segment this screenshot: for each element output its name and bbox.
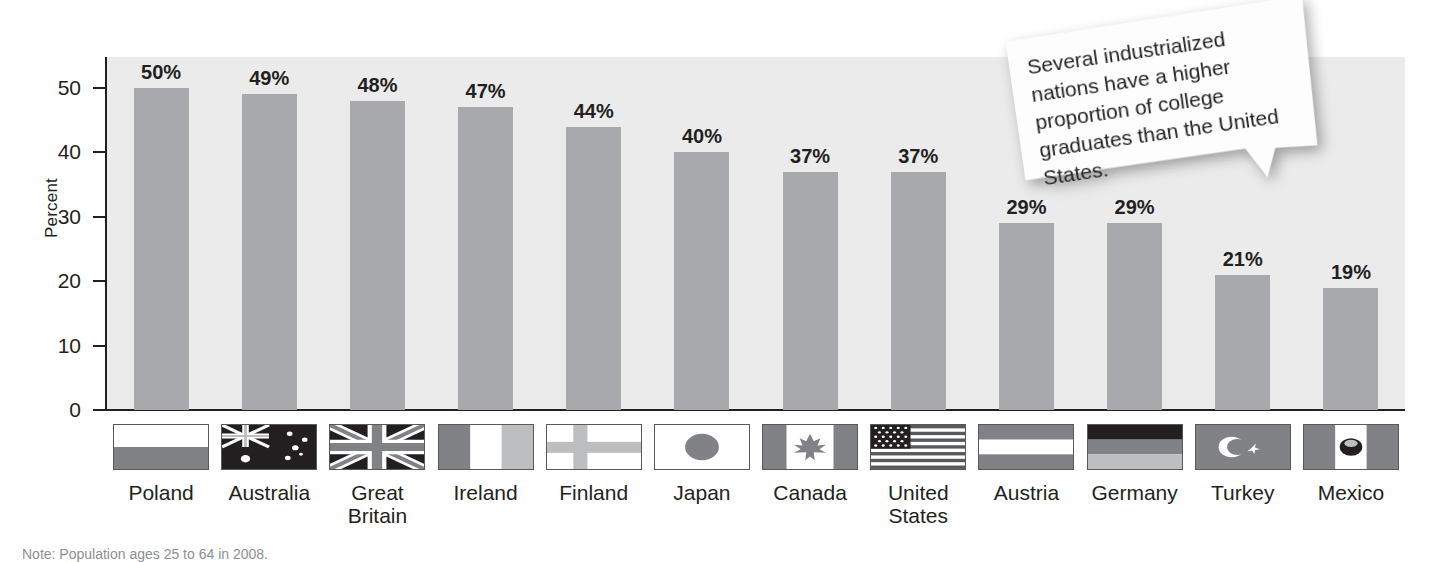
country-label-line: Ireland	[432, 482, 540, 505]
bar	[134, 88, 189, 410]
flag-japan-icon	[654, 424, 750, 470]
bar-column: 50%	[134, 57, 189, 410]
y-axis-line	[105, 57, 107, 411]
country-label: Poland	[107, 482, 215, 505]
y-tick-label: 50	[35, 77, 81, 98]
bar	[783, 172, 838, 410]
country-label-line: Poland	[107, 482, 215, 505]
country-label-line: Finland	[540, 482, 648, 505]
country-label: Ireland	[432, 482, 540, 505]
y-tick-mark	[93, 151, 106, 153]
bar-value-label: 29%	[1107, 197, 1162, 217]
y-tick-label: 40	[35, 141, 81, 162]
flag-ireland-icon	[438, 424, 534, 470]
flag-great-britain-icon	[329, 424, 425, 470]
bar-value-label: 21%	[1215, 249, 1270, 269]
country-label-line: Australia	[215, 482, 323, 505]
y-tick-mark	[93, 87, 106, 89]
bar-value-label: 48%	[350, 75, 405, 95]
bar-column: 47%	[458, 57, 513, 410]
bar-value-label: 37%	[891, 146, 946, 166]
bar-column: 44%	[566, 57, 621, 410]
flag-germany-icon	[1087, 424, 1183, 470]
country-label: Japan	[648, 482, 756, 505]
country-label: Canada	[756, 482, 864, 505]
flag-finland-icon	[546, 424, 642, 470]
bar	[999, 223, 1054, 410]
flag-united-states-icon	[870, 424, 966, 470]
country-label: Mexico	[1297, 482, 1405, 505]
y-tick-label: 30	[35, 206, 81, 227]
bar	[242, 94, 297, 410]
bar	[1107, 223, 1162, 410]
country-label: Australia	[215, 482, 323, 505]
flag-canada-icon	[762, 424, 858, 470]
bar-column: 49%	[242, 57, 297, 410]
flag-turkey-icon	[1195, 424, 1291, 470]
bar-column: 40%	[674, 57, 729, 410]
bar-value-label: 49%	[242, 68, 297, 88]
country-label-line: Turkey	[1189, 482, 1297, 505]
country-label: Turkey	[1189, 482, 1297, 505]
country-label-line: Austria	[972, 482, 1080, 505]
country-label-line: States	[864, 505, 972, 528]
bar	[1215, 275, 1270, 410]
bar	[458, 107, 513, 410]
country-label-line: Britain	[323, 505, 431, 528]
bar-column: 48%	[350, 57, 405, 410]
y-tick-mark	[93, 280, 106, 282]
bar	[566, 127, 621, 410]
y-tick-label: 10	[35, 335, 81, 356]
y-tick-label: 20	[35, 270, 81, 291]
y-tick-mark	[93, 345, 106, 347]
bar-value-label: 37%	[783, 146, 838, 166]
country-label: Finland	[540, 482, 648, 505]
country-label: Germany	[1081, 482, 1189, 505]
country-label: UnitedStates	[864, 482, 972, 527]
bar-column: 37%	[783, 57, 838, 410]
chart-footnote: Note: Population ages 25 to 64 in 2008.	[22, 546, 268, 562]
bar-column: 37%	[891, 57, 946, 410]
y-tick-mark	[93, 216, 106, 218]
country-label-line: United	[864, 482, 972, 505]
bar-column: 19%	[1323, 57, 1378, 410]
country-label: GreatBritain	[323, 482, 431, 527]
flag-poland-icon	[113, 424, 209, 470]
country-label-line: Canada	[756, 482, 864, 505]
country-label-line: Mexico	[1297, 482, 1405, 505]
country-label: Austria	[972, 482, 1080, 505]
flag-mexico-icon	[1303, 424, 1399, 470]
bar	[350, 101, 405, 410]
y-tick-label: 0	[35, 399, 81, 420]
bar	[674, 152, 729, 410]
bar	[891, 172, 946, 410]
bar	[1323, 288, 1378, 410]
country-label-line: Japan	[648, 482, 756, 505]
y-tick-mark	[93, 409, 106, 411]
bar-value-label: 50%	[134, 62, 189, 82]
bar-value-label: 19%	[1323, 262, 1378, 282]
x-axis-line	[105, 409, 1405, 411]
bar-value-label: 47%	[458, 81, 513, 101]
flag-australia-icon	[221, 424, 317, 470]
flag-austria-icon	[978, 424, 1074, 470]
bar-value-label: 40%	[674, 126, 729, 146]
country-label-line: Germany	[1081, 482, 1189, 505]
bar-value-label: 44%	[566, 101, 621, 121]
country-label-line: Great	[323, 482, 431, 505]
